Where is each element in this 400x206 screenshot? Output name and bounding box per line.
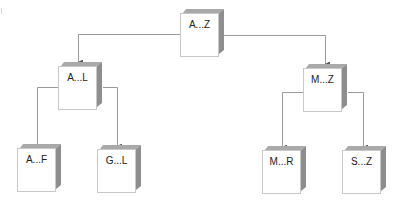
- edge-az-al: [79, 35, 181, 63]
- tree-diagram: A...Z A...L M...Z A...F G...L M...R S...…: [0, 0, 400, 206]
- node-a-f: A...F: [17, 144, 61, 192]
- node-a-l: A...L: [58, 62, 102, 110]
- node-label: A...L: [58, 72, 97, 83]
- node-label: A...Z: [180, 19, 219, 30]
- box-side-shade: [381, 146, 386, 191]
- edge-az-mz: [223, 36, 326, 65]
- node-m-z: M...Z: [303, 64, 347, 112]
- edge-mz-sz: [348, 93, 364, 148]
- node-label: M...R: [262, 156, 301, 167]
- node-label: G...L: [97, 155, 136, 166]
- node-label: M...Z: [303, 74, 342, 85]
- node-label: S...Z: [342, 156, 381, 167]
- box-side-shade: [301, 146, 306, 191]
- node-label: A...F: [17, 154, 56, 165]
- node-a-z: A...Z: [180, 9, 224, 57]
- node-m-r: M...R: [262, 146, 306, 194]
- edge-al-af: [38, 88, 59, 147]
- node-g-l: G...L: [97, 145, 141, 193]
- box-side-shade: [136, 145, 141, 190]
- edge-mz-mr: [283, 93, 304, 148]
- edge-al-gl: [103, 88, 118, 147]
- box-side-shade: [56, 144, 61, 189]
- box-side-shade: [342, 64, 347, 109]
- box-side-shade: [97, 62, 102, 107]
- box-side-shade: [219, 9, 224, 54]
- node-s-z: S...Z: [342, 146, 386, 194]
